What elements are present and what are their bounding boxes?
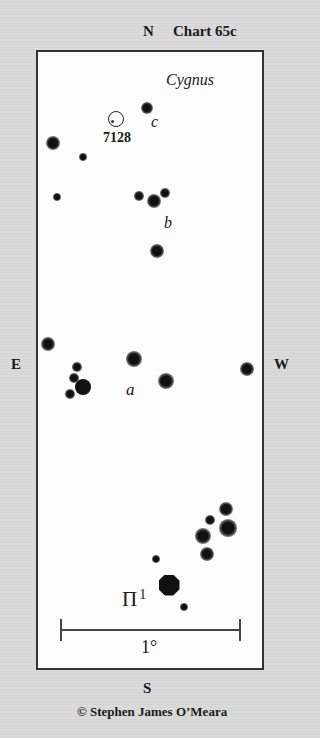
cluster-label: 7128	[103, 131, 131, 145]
bright-star-label: Π1	[122, 588, 146, 610]
east-label: E	[11, 357, 21, 372]
open-cluster-marker	[108, 111, 124, 127]
cluster-center-dot	[111, 120, 114, 123]
bright-star-name: Π	[122, 587, 137, 611]
bright-star-superscript: 1	[139, 587, 146, 602]
star-label-a: a	[126, 381, 135, 398]
chart-title: Chart 65c	[173, 24, 237, 39]
north-label: N	[143, 24, 154, 39]
scale-bar-right-tick	[239, 619, 241, 641]
south-label: S	[143, 681, 151, 696]
west-label: W	[274, 357, 289, 372]
scale-bar-left-tick	[60, 619, 62, 641]
star-label-b: b	[164, 215, 172, 231]
chart-frame	[36, 50, 264, 670]
constellation-label: Cygnus	[166, 72, 214, 88]
star-label-c: c	[151, 114, 158, 130]
scale-bar	[61, 629, 240, 631]
scale-label: 1°	[141, 638, 157, 656]
copyright-credit: © Stephen James O’Meara	[77, 705, 227, 718]
